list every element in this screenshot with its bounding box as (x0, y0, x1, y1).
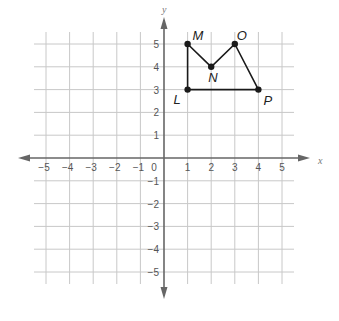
coordinate-plane: x y 0 −5−4−3−2−11234554321−1−2−3−4−5 LMN… (0, 0, 339, 321)
x-tick-label: −5 (38, 162, 50, 173)
y-tick-label: 2 (153, 107, 159, 118)
y-tick-label: 1 (153, 130, 159, 141)
y-tick-label: −3 (148, 221, 160, 232)
origin-label: 0 (151, 162, 157, 173)
data-points: LMNOP (174, 28, 273, 108)
x-tick-label: 4 (256, 162, 262, 173)
point-m (184, 41, 190, 47)
y-tick-label: 5 (153, 39, 159, 50)
x-tick-label: −4 (62, 162, 74, 173)
y-tick-label: −1 (148, 176, 160, 187)
point-label-o: O (237, 28, 247, 43)
y-tick-label: 3 (153, 85, 159, 96)
x-axis-right-arrow-icon (298, 155, 310, 162)
y-tick-label: −4 (148, 244, 160, 255)
x-tick-label: −2 (109, 162, 121, 173)
x-tick-label: −1 (133, 162, 145, 173)
point-label-l: L (174, 92, 181, 107)
y-tick-label: 4 (153, 62, 159, 73)
x-tick-label: 1 (185, 162, 191, 173)
y-tick-label: −5 (148, 267, 160, 278)
axes: x y 0 (18, 4, 323, 299)
point-p (255, 86, 261, 92)
point-label-n: N (208, 70, 218, 85)
point-label-p: P (263, 93, 272, 108)
point-l (184, 86, 190, 92)
x-tick-label: 2 (208, 162, 214, 173)
x-axis-label: x (317, 155, 323, 166)
y-axis-up-arrow-icon (161, 17, 168, 29)
y-axis-down-arrow-icon (161, 287, 168, 299)
x-tick-label: 3 (232, 162, 238, 173)
y-axis-label: y (161, 4, 167, 15)
x-tick-label: 5 (279, 162, 285, 173)
x-axis-left-arrow-icon (18, 155, 30, 162)
point-label-m: M (193, 28, 204, 43)
y-tick-label: −2 (148, 199, 160, 210)
x-tick-label: −3 (85, 162, 97, 173)
